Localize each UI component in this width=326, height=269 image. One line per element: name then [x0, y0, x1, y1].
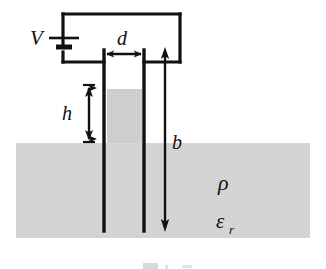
- height-label: h: [62, 102, 72, 124]
- voltage-source-label: V: [30, 26, 45, 50]
- figure-container: V d h: [0, 0, 326, 269]
- depth-label: b: [172, 131, 182, 153]
- liquid-column: [107, 89, 142, 143]
- resistivity-label: ρ: [217, 170, 229, 195]
- permittivity-label: ε: [216, 209, 225, 233]
- caption-fragment: [143, 263, 192, 269]
- plate-separation-label: d: [117, 27, 128, 49]
- schematic-diagram: V d h: [0, 0, 326, 269]
